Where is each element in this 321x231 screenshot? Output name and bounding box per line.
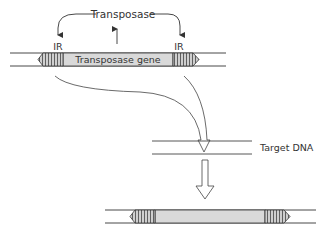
transposition-diagram: Transposase IR IR Transposase gene Targe… xyxy=(0,0,321,231)
target-dna-label: Target DNA xyxy=(259,142,314,153)
transposase-label: Transposase xyxy=(90,8,156,20)
ir-left-label: IR xyxy=(53,41,63,52)
result-down-arrow-icon xyxy=(196,160,214,199)
inserted-gene-box xyxy=(155,210,265,223)
transposase-gene-label: Transposase gene xyxy=(74,54,160,65)
ir-left-block xyxy=(38,53,63,66)
inserted-ir-right-block xyxy=(265,210,290,223)
ir-right-block xyxy=(173,53,199,66)
excision-curve-right xyxy=(184,76,207,140)
donor-dna: Transposase gene xyxy=(10,53,226,66)
inserted-ir-left-block xyxy=(130,210,155,223)
target-dna: Target DNA xyxy=(152,141,314,154)
excision-curve-left xyxy=(55,76,201,140)
ir-right-label: IR xyxy=(174,41,184,52)
recipient-dna xyxy=(105,210,316,223)
transposase-bracket: Transposase xyxy=(58,8,180,35)
insertion-arrowhead-icon xyxy=(198,140,210,152)
